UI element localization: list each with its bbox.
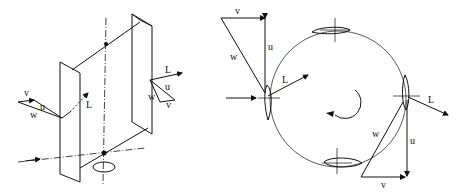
label-w: w	[230, 51, 238, 62]
label-l: L	[282, 74, 288, 85]
right-panel: v u w L L w u v	[221, 5, 448, 190]
hub-top	[104, 42, 108, 46]
left-blade	[60, 62, 80, 182]
label-u: u	[40, 101, 45, 112]
label-w: w	[148, 91, 156, 102]
airfoil-bottom	[324, 158, 362, 167]
label-v: v	[235, 5, 240, 16]
right-velocity-triangle: L u w v	[148, 64, 182, 110]
label-u: u	[410, 135, 415, 146]
airfoil-top	[312, 27, 350, 34]
vawt-diagram: v u w L L u w v	[0, 0, 459, 196]
label-u: u	[268, 41, 273, 52]
rotor-circle	[270, 31, 406, 167]
left-velocity-triangle-top-view: v u w L	[221, 5, 308, 98]
label-l: L	[86, 99, 92, 110]
rotation-arrow-icon	[335, 90, 361, 119]
label-w: w	[372, 128, 380, 139]
label-v: v	[381, 179, 386, 190]
bottom-strut	[80, 128, 148, 168]
label-l: L	[428, 94, 434, 105]
hub-bottom	[102, 151, 107, 156]
label-v: v	[24, 87, 29, 98]
right-blade	[132, 14, 152, 134]
left-panel: v u w L L u w v	[18, 14, 182, 185]
horizontal-axis	[18, 148, 145, 162]
rotation-indicator-icon	[93, 162, 115, 172]
label-l: L	[165, 64, 171, 75]
left-velocity-triangle: v u w L	[18, 87, 92, 120]
label-w: w	[30, 109, 38, 120]
label-u: u	[165, 81, 170, 92]
label-v: v	[166, 99, 171, 110]
